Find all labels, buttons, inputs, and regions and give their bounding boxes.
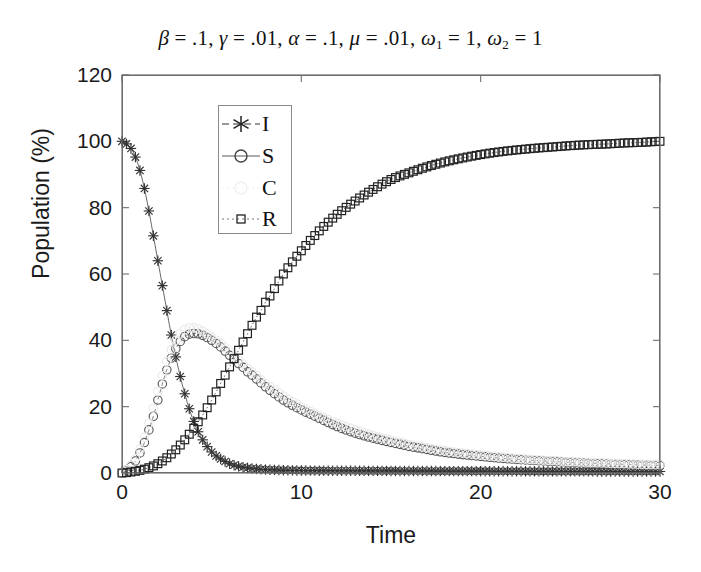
x-tick-label-10: 10 xyxy=(266,480,336,504)
x-tick-label-20: 20 xyxy=(446,480,516,504)
legend-marker-asterisk-icon xyxy=(219,109,263,139)
x-tick-label-30: 30 xyxy=(625,480,695,504)
legend-item-i[interactable]: I xyxy=(219,108,293,140)
legend-marker-faint-circle-icon xyxy=(219,173,263,203)
legend-marker-square-icon xyxy=(219,204,263,234)
legend-item-c[interactable]: C xyxy=(219,172,293,204)
legend-label-r: R xyxy=(262,208,277,230)
legend-label-c: C xyxy=(262,177,277,199)
legend[interactable]: I S C xyxy=(218,105,292,234)
x-axis-ticks: 0102030 xyxy=(0,0,701,572)
legend-label-i: I xyxy=(262,113,269,135)
figure-canvas: β = .1, γ = .01, α = .1, μ = .01, ω1 = 1… xyxy=(0,0,701,572)
legend-item-r[interactable]: R xyxy=(219,203,293,235)
x-tick-label-0: 0 xyxy=(87,480,157,504)
legend-item-s[interactable]: S xyxy=(219,140,293,172)
legend-marker-circle-icon xyxy=(219,141,263,171)
legend-label-s: S xyxy=(262,145,274,167)
